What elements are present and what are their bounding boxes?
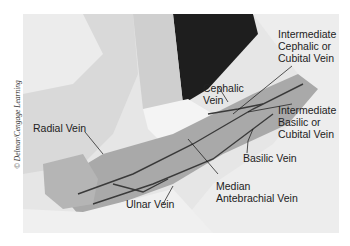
label-intermediate-cephalic-vein: Intermediate Cephalic or Cubital Vein	[278, 28, 336, 64]
label-radial-vein: Radial Vein	[33, 122, 86, 134]
label-ulnar-vein: Ulnar Vein	[126, 198, 174, 210]
label-intermediate-basilic-vein: Intermediate Basilic or Cubital Vein	[278, 104, 336, 140]
label-cephalic-vein: Cephalic Vein	[203, 82, 244, 106]
label-basilic-vein: Basilic Vein	[243, 152, 297, 164]
label-median-antebrachial-vein: Median Antebrachial Vein	[216, 180, 298, 204]
copyright-credit: © Delmar/Cengage Learning	[13, 70, 22, 180]
